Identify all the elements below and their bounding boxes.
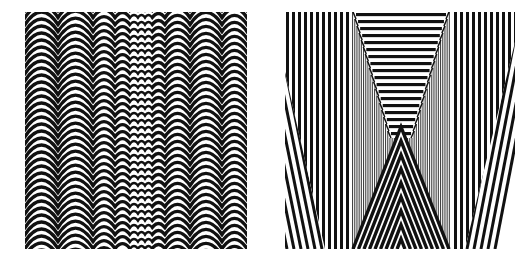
arc-column (129, 12, 139, 249)
arc-column (164, 12, 191, 249)
arc-column (57, 12, 94, 249)
stripe-chevron-artwork (285, 12, 515, 249)
arc-column (25, 12, 59, 249)
arc-column (92, 12, 116, 249)
arc-column (221, 12, 247, 249)
arc-column (189, 12, 223, 249)
arc-column (151, 12, 166, 249)
arc-column (144, 12, 153, 249)
arc-column (137, 12, 146, 249)
wavy-arc-columns-artwork (25, 12, 247, 249)
left-op-art-panel (25, 12, 247, 249)
right-op-art-panel (285, 12, 515, 249)
arc-column (114, 12, 131, 249)
